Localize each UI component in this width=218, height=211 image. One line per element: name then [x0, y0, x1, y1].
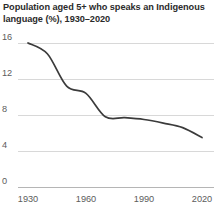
y-axis-tick-label: 12 — [2, 68, 12, 78]
gridlines — [18, 44, 214, 188]
y-axis-tick-label: 16 — [2, 32, 12, 42]
x-axis-tick-label: 1960 — [66, 194, 106, 204]
x-axis-tick-label: 1930 — [8, 194, 48, 204]
y-axis-tick-label: 4 — [2, 140, 7, 150]
y-axis-tick-label: 0 — [2, 176, 7, 186]
y-axis-tick-label: 8 — [2, 104, 7, 114]
data-line — [28, 43, 202, 138]
x-axis-tick-label: 2020 — [182, 194, 218, 204]
data-line-group — [28, 43, 202, 138]
x-axis-tick-label: 1990 — [124, 194, 164, 204]
chart-svg — [0, 0, 218, 211]
chart-figure: Population aged 5+ who speaks an Indigen… — [0, 0, 218, 211]
plot-area: 0481216 1930196019902020 — [0, 0, 218, 211]
